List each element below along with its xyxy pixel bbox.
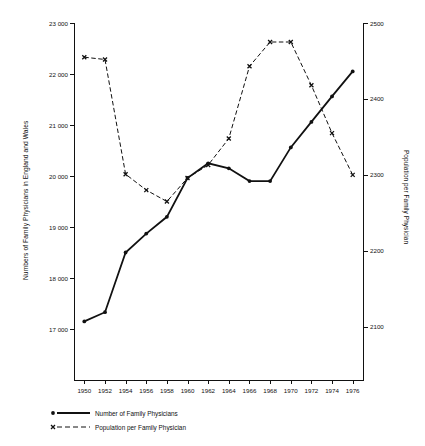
data-point-marker xyxy=(227,137,231,141)
data-point-marker xyxy=(227,166,231,170)
data-point-marker xyxy=(310,120,314,124)
data-point-marker xyxy=(144,188,148,192)
series-line xyxy=(84,71,352,321)
data-point-marker xyxy=(351,70,355,74)
data-point-marker xyxy=(165,200,169,204)
legend-entry: Population per Family Physician xyxy=(48,420,186,434)
dot-icon xyxy=(48,408,92,418)
legend-label: Population per Family Physician xyxy=(95,424,186,431)
data-point-marker xyxy=(103,310,107,314)
data-point-marker xyxy=(124,251,128,255)
data-point-marker xyxy=(330,95,334,99)
legend-label: Number of Family Physicians xyxy=(95,410,178,417)
legend: Number of Family PhysiciansPopulation pe… xyxy=(48,406,186,434)
x-icon xyxy=(48,422,92,432)
data-point-marker xyxy=(144,232,148,236)
data-point-marker xyxy=(330,131,334,135)
data-point-marker xyxy=(309,83,313,87)
data-point-marker xyxy=(268,40,272,44)
data-point-marker xyxy=(165,215,169,219)
figure-root: 17 00018 00019 00020 00021 00022 00023 0… xyxy=(0,0,425,446)
plot-area xyxy=(0,0,425,446)
data-point-marker xyxy=(248,179,252,183)
legend-entry: Number of Family Physicians xyxy=(48,406,186,420)
series-2 xyxy=(82,40,354,204)
series-1 xyxy=(82,70,354,324)
data-point-marker xyxy=(268,179,272,183)
data-point-marker xyxy=(289,146,293,150)
data-point-marker xyxy=(351,173,355,177)
data-point-marker xyxy=(82,320,86,324)
